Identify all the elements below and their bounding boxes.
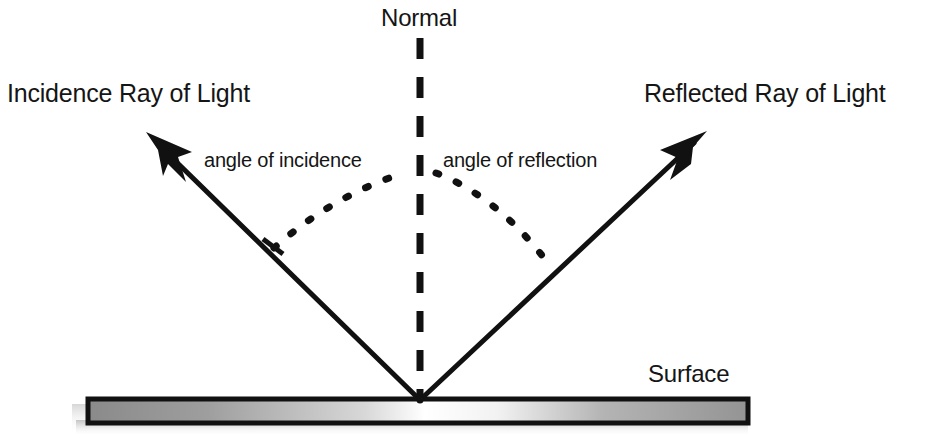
label-reflected-ray: Reflected Ray of Light — [644, 80, 886, 106]
incident-ray-arrow — [146, 132, 420, 400]
label-incidence-ray: Incidence Ray of Light — [7, 80, 250, 106]
label-angle-of-incidence: angle of incidence — [204, 150, 362, 171]
angle-of-reflection-arc — [436, 173, 550, 266]
label-angle-of-reflection: angle of reflection — [443, 150, 597, 171]
diagram-canvas — [0, 0, 930, 442]
label-normal: Normal — [381, 5, 457, 30]
reflection-diagram: Normal Incidence Ray of Light Reflected … — [0, 0, 930, 442]
angle-of-incidence-arc — [274, 173, 404, 248]
point-of-incidence — [417, 397, 424, 404]
label-surface: Surface — [648, 361, 729, 386]
